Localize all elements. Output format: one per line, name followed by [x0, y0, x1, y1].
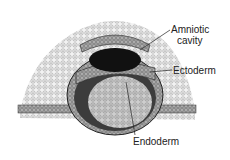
label-amniotic-cavity: Amniotic cavity [171, 24, 209, 46]
label-endoderm: Endoderm [133, 136, 179, 147]
amniotic-cavity [89, 48, 141, 72]
label-amniotic-line1: Amniotic [171, 24, 209, 35]
label-ectoderm: Ectoderm [173, 65, 216, 76]
label-amniotic-line2: cavity [171, 35, 209, 46]
embryo-diagram: Amniotic cavity Ectoderm Endoderm [0, 0, 230, 160]
